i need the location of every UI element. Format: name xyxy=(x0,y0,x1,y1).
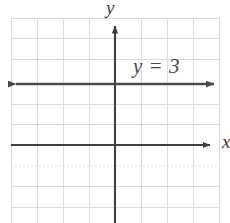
x-axis-label: x xyxy=(222,131,230,153)
y-axis-label: y xyxy=(106,0,114,19)
line-equation-label: y = 3 xyxy=(133,54,180,79)
graph-canvas xyxy=(0,0,230,223)
coordinate-plane-figure: y x y = 3 xyxy=(0,0,230,223)
